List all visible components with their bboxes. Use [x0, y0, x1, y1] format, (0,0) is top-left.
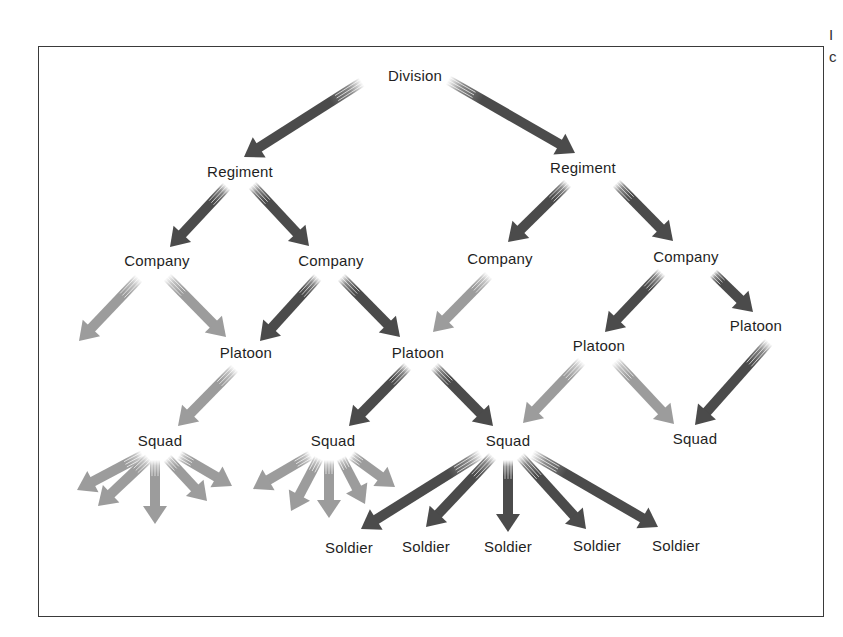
node-company-2: Company	[298, 252, 364, 269]
arrow-layer	[70, 70, 778, 540]
node-soldier-1: Soldier	[325, 539, 373, 556]
arrow-dark-squad-3-to-soldier-1	[355, 444, 488, 539]
node-platoon-1: Platoon	[220, 344, 272, 361]
caption-fragment: I	[829, 26, 843, 43]
node-soldier-2: Soldier	[402, 538, 450, 555]
caption-fragment: c	[829, 48, 843, 65]
arrow-dark-company-2-to-platoon-2	[332, 269, 408, 346]
arrow-light-platoon-1-to-squad-1	[169, 360, 243, 435]
arrow-dark-company-2-to-platoon-1	[251, 269, 327, 349]
node-platoon-4: Platoon	[730, 317, 782, 334]
arrow-dark-regiment-1-to-company-1	[161, 178, 236, 255]
arrow-dark-regiment-2-to-company-3	[500, 174, 577, 250]
arrow-dark-platoon-2-to-squad-2	[340, 358, 416, 435]
arrow-dark-regiment-2-to-company-4	[607, 175, 681, 250]
arrow-light-squad-2-to-soldier-offframe	[317, 460, 341, 518]
arrow-dark-company-4-to-platoon-3	[596, 264, 670, 341]
node-squad-4: Squad	[673, 430, 717, 447]
arrow-light-squad-1-to-soldier-offframe	[143, 460, 167, 524]
arrow-dark-company-4-to-platoon-4	[705, 264, 762, 320]
node-squad-2: Squad	[311, 432, 355, 449]
node-regiment-1: Regiment	[207, 163, 273, 180]
node-company-1: Company	[124, 252, 190, 269]
arrow-dark-division-to-regiment-1	[238, 72, 369, 167]
node-regiment-2: Regiment	[550, 159, 616, 176]
arrow-light-company-1-to-platoon-1	[158, 269, 234, 346]
arrow-dark-regiment-1-to-company-2	[243, 177, 318, 254]
node-soldier-4: Soldier	[573, 537, 621, 554]
node-division: Division	[388, 67, 442, 84]
node-soldier-5: Soldier	[652, 537, 700, 554]
node-soldier-3: Soldier	[484, 538, 532, 555]
node-platoon-3: Platoon	[573, 337, 625, 354]
arrow-light-company-1-to-platoon-offframe	[70, 270, 147, 350]
arrow-light-company-3-to-platoon-2	[424, 267, 497, 341]
node-company-4: Company	[653, 248, 719, 265]
arrow-dark-squad-3-to-soldier-3	[496, 460, 520, 532]
node-squad-1: Squad	[138, 432, 182, 449]
arrow-light-platoon-3-to-squad-4	[606, 353, 683, 432]
node-platoon-2: Platoon	[392, 344, 444, 361]
arrow-light-platoon-3-to-squad-3	[514, 353, 590, 432]
arrow-dark-platoon-2-to-squad-3	[425, 358, 501, 435]
node-squad-3: Squad	[486, 432, 530, 449]
arrow-dark-division-to-regiment-2	[442, 70, 581, 164]
node-company-3: Company	[467, 250, 533, 267]
arrow-dark-platoon-4-to-squad-4	[686, 334, 778, 433]
